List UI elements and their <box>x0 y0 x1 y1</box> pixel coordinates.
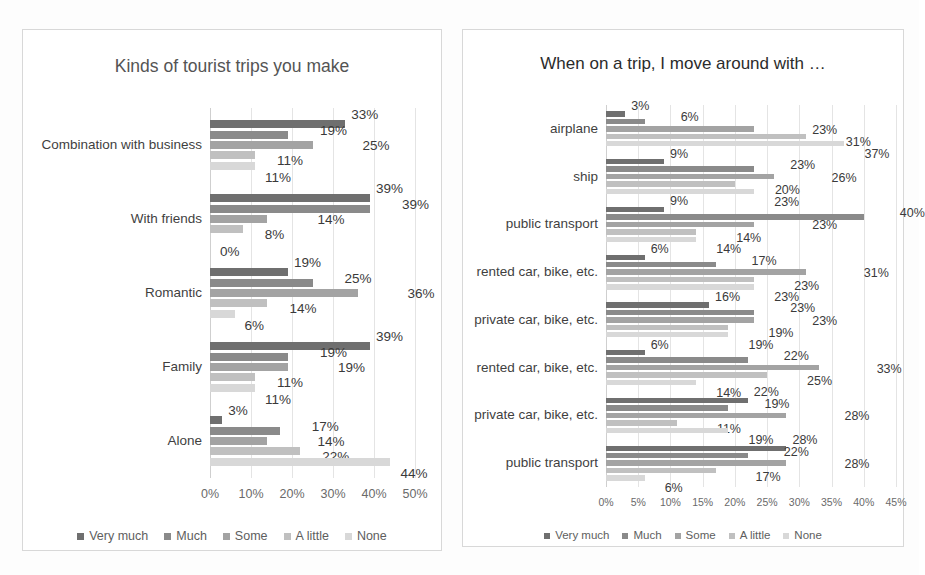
data-label: 25% <box>807 375 832 388</box>
data-label: 19% <box>320 124 347 138</box>
bar-some <box>606 460 786 465</box>
bar-a-little <box>606 420 677 425</box>
bar-some <box>210 289 358 297</box>
data-label: 6% <box>665 482 683 495</box>
x-tick-label: 50% <box>398 488 432 501</box>
bar-much <box>210 427 280 435</box>
bar-none <box>210 162 255 170</box>
legend-item-some[interactable]: Some <box>223 530 268 543</box>
category-label: rented car, bike, etc. <box>463 361 598 375</box>
bar-a-little <box>606 229 696 234</box>
data-label: 19% <box>294 256 321 270</box>
legend-left: Very muchMuchSomeA littleNone <box>23 530 441 543</box>
x-tick-label: 45% <box>879 497 913 508</box>
bar-much <box>210 353 288 361</box>
bar-a-little <box>606 325 728 330</box>
bar-much <box>606 405 728 410</box>
data-label: 33% <box>351 108 378 122</box>
legend-label: Much <box>633 530 661 542</box>
bar-a-little <box>606 134 806 139</box>
category-label: rented car, bike, etc. <box>463 265 598 279</box>
bar-much <box>606 262 716 267</box>
data-label: 14% <box>317 435 344 449</box>
x-tick-label: 25% <box>750 497 784 508</box>
bar-a-little <box>210 151 255 159</box>
legend-item-a-little[interactable]: A little <box>729 530 771 542</box>
category-label: Alone <box>23 434 202 448</box>
legend-item-very-much[interactable]: Very much <box>544 530 609 542</box>
legend-swatch-icon <box>77 533 84 540</box>
bar-none <box>606 380 696 385</box>
data-label: 23% <box>774 196 799 209</box>
data-label: 23% <box>812 315 837 328</box>
x-tick-label: 40% <box>847 497 881 508</box>
data-label: 14% <box>317 213 344 227</box>
bar-a-little <box>210 225 243 233</box>
bar-very-much <box>210 416 222 424</box>
legend-item-much[interactable]: Much <box>622 530 661 542</box>
legend-item-very-much[interactable]: Very much <box>77 530 148 543</box>
data-label: 11% <box>265 393 291 407</box>
data-label: 17% <box>756 471 781 484</box>
bar-a-little <box>210 299 267 307</box>
bar-some <box>210 215 267 223</box>
bar-much <box>606 357 748 362</box>
data-label: 0% <box>220 245 240 259</box>
legend-item-some[interactable]: Some <box>675 530 716 542</box>
bar-some <box>606 365 819 370</box>
bar-much <box>606 119 645 124</box>
data-label: 44% <box>400 467 427 481</box>
data-label: 6% <box>651 243 669 256</box>
bar-none <box>210 310 235 318</box>
data-label: 14% <box>716 243 741 256</box>
gridline-25 <box>767 105 768 487</box>
bar-very-much <box>606 255 645 260</box>
data-label: 11% <box>265 171 291 185</box>
legend-swatch-icon <box>675 533 681 539</box>
bar-a-little <box>606 277 754 282</box>
legend-item-none[interactable]: None <box>345 530 387 543</box>
data-label: 14% <box>289 302 316 316</box>
legend-label: Some <box>235 530 268 543</box>
bar-some <box>606 317 754 322</box>
data-label: 22% <box>784 350 809 363</box>
chart-panel-right: When on a trip, I move around with … 3%6… <box>462 29 904 547</box>
data-label: 39% <box>402 198 429 212</box>
data-label: 11% <box>277 154 303 168</box>
bar-very-much <box>606 302 709 307</box>
bar-much <box>210 279 313 287</box>
bar-some <box>606 269 806 274</box>
bar-some <box>606 174 774 179</box>
bar-a-little <box>606 181 735 186</box>
legend-swatch-icon <box>622 533 628 539</box>
data-label: 9% <box>670 195 688 208</box>
legend-label: Some <box>686 530 716 542</box>
legend-item-much[interactable]: Much <box>164 530 207 543</box>
x-tick-label: 10% <box>234 488 268 501</box>
legend-item-none[interactable]: None <box>783 530 822 542</box>
bar-a-little <box>606 468 716 473</box>
data-label: 40% <box>900 207 925 220</box>
data-label: 36% <box>408 287 435 301</box>
category-label: airplane <box>463 122 598 136</box>
legend-swatch-icon <box>223 533 230 540</box>
data-label: 22% <box>784 446 809 459</box>
data-label: 39% <box>376 330 403 344</box>
category-label: Combination with business <box>23 138 202 152</box>
x-tick-label: 10% <box>653 497 687 508</box>
data-label: 23% <box>812 124 837 137</box>
x-tick-label: 5% <box>621 497 655 508</box>
legend-item-a-little[interactable]: A little <box>284 530 329 543</box>
x-tick-label: 30% <box>316 488 350 501</box>
bar-none <box>606 237 696 242</box>
x-tick-label: 30% <box>782 497 816 508</box>
bar-none <box>606 428 728 433</box>
x-tick-label: 20% <box>718 497 752 508</box>
bar-none <box>606 141 844 146</box>
bar-none <box>606 189 754 194</box>
data-label: 33% <box>877 363 902 376</box>
bar-some <box>210 363 288 371</box>
bar-none <box>210 384 255 392</box>
data-label: 39% <box>376 182 403 196</box>
gridline-35 <box>832 105 833 487</box>
